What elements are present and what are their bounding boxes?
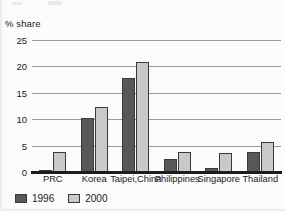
bar-1996-korea [81,118,94,172]
bar-2000-korea [95,107,108,172]
y-axis-tick-label: 15 [16,87,27,98]
bar-1996-taipei-china [122,78,135,173]
cropped-text-artifact [12,2,22,5]
bar-group [164,40,191,172]
bar-group [205,40,232,172]
x-axis-tick-label: Thailand [242,174,278,184]
y-axis-title: % share [5,18,41,29]
x-axis-tick-label: Philippines [155,174,200,184]
legend-label-1996: 1996 [32,193,54,204]
bar-2000-singapore [219,153,232,172]
y-axis-tick-label: 20 [16,61,27,72]
bar-group [247,40,274,172]
left-edge-border [0,0,2,211]
y-axis-tick-label: 0 [22,167,27,178]
bar-2000-philippines [178,152,191,172]
x-axis-tick-label: Taipei,China [110,174,161,184]
chart-legend: 19962000 [15,193,108,204]
bottom-edge-border [0,209,285,211]
legend-item-2000[interactable]: 2000 [68,193,107,204]
y-axis-tick-label: 10 [16,114,27,125]
legend-label-2000: 2000 [85,193,107,204]
x-axis-tick-label: PRC [43,174,63,184]
x-axis-tick-label: Korea [82,174,107,184]
cropped-text-artifact [48,1,62,5]
x-axis-labels: PRCKoreaTaipei,ChinaPhilippinesSingapore… [32,174,281,188]
legend-item-1996[interactable]: 1996 [15,193,54,204]
plot-area: 0510152025 [32,40,281,172]
bar-2000-thailand [261,142,274,172]
legend-swatch-2000 [68,194,80,203]
bar-group [81,40,108,172]
y-axis-tick-label: 25 [16,35,27,46]
legend-swatch-1996 [15,194,27,203]
y-axis-tick-label: 5 [22,140,27,151]
bar-2000-taipei-china [136,62,149,172]
bar-group [122,40,149,172]
bar-chart: % share 0510152025 PRCKoreaTaipei,ChinaP… [0,0,285,211]
bar-series-container [32,40,281,172]
x-axis-tick-label: Singapore [198,174,240,184]
bar-1996-thailand [247,152,260,172]
bar-2000-prc [53,152,66,172]
bar-group [39,40,66,172]
